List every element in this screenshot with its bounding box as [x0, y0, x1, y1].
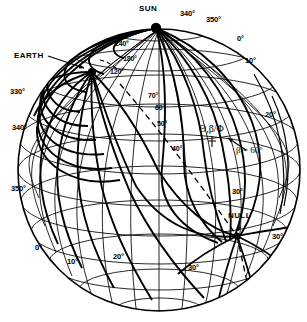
- theta-beta-phi-label: Θ,β/Φ: [199, 124, 224, 134]
- meridian-label-340-left: 340°: [12, 124, 27, 132]
- sphere-diagram-canvas: [0, 0, 307, 322]
- field-line-label-240: 240°: [115, 40, 129, 47]
- sun-point-marker: [151, 23, 161, 33]
- field-line-label-120: 120°: [110, 68, 124, 75]
- meridian-label-0-top: 0°: [237, 35, 244, 43]
- meridian-label-10-right: 10°: [245, 57, 256, 65]
- meridian-label-350-left: 350°: [11, 185, 26, 193]
- beta-value-label: β = 60°: [236, 146, 263, 155]
- meridian-label-30-right-upper: 30°: [232, 188, 243, 196]
- field-line-label-40: 40°: [172, 145, 182, 152]
- earth-point-marker: [88, 68, 96, 76]
- meridian-label-340-top: 340°: [180, 10, 195, 18]
- field-line-label-180: 180°: [123, 55, 137, 62]
- sphere-diagram-figure: SUN EARTH NULL 340° 350° 0° 10° 20° 30° …: [0, 0, 307, 322]
- earth-label: EARTH: [14, 52, 44, 60]
- field-line-label-70: 70°: [148, 92, 158, 99]
- sun-label: SUN: [139, 5, 157, 13]
- meridian-label-330-left: 330°: [10, 88, 25, 96]
- null-label: NULL: [228, 212, 251, 220]
- meridian-label-350-top: 350°: [206, 16, 221, 24]
- meridian-label-20-right: 20°: [265, 111, 276, 119]
- field-line-label-60: 60°: [155, 104, 165, 111]
- meridian-label-20-bottom: 20°: [113, 253, 124, 261]
- meridian-label-30-bottom: 30°: [188, 264, 199, 272]
- meridian-label-30-right-lower: 30°: [272, 233, 283, 241]
- meridian-label-10-bottom-left: 10°: [67, 258, 78, 266]
- null-point-marker: [234, 233, 241, 240]
- meridian-label-0-left: 0°: [35, 244, 42, 252]
- field-line-label-50: 50°: [157, 120, 167, 127]
